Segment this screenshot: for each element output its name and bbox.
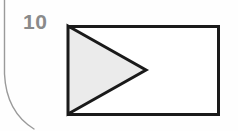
problem-number-label: 10	[23, 11, 47, 32]
geometry-figure	[62, 20, 224, 121]
figure-svg	[62, 20, 224, 121]
figure-page: 10	[0, 0, 238, 131]
